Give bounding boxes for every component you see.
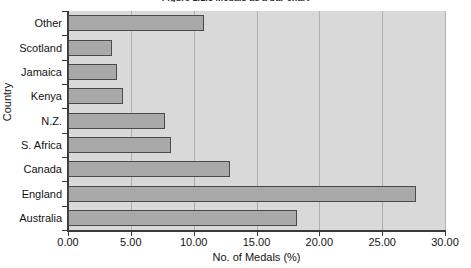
bar	[68, 64, 117, 80]
bar	[68, 210, 297, 226]
y-tick-label: Australia	[0, 212, 62, 224]
y-tick-mark	[62, 157, 67, 158]
y-tick-mark	[62, 206, 67, 207]
y-tick-mark	[62, 35, 67, 36]
x-axis-title: No. of Medals (%)	[68, 251, 445, 263]
x-tick-label: 15.00	[232, 236, 282, 248]
y-tick-mark	[62, 11, 67, 12]
bar	[68, 15, 204, 31]
x-tick-label: 30.00	[420, 236, 470, 248]
bar-row	[68, 137, 445, 153]
bar-row	[68, 40, 445, 56]
y-tick-label: Scotland	[0, 42, 62, 54]
gridline	[445, 11, 446, 230]
bar-chart-figure: Figure 1.1.3 Medals as a bar chart 0.005…	[0, 0, 471, 268]
y-tick-mark	[62, 108, 67, 109]
x-tick-label: 10.00	[169, 236, 219, 248]
bar	[68, 113, 165, 129]
y-tick-mark	[62, 84, 67, 85]
bar-row	[68, 186, 445, 202]
bar-row	[68, 113, 445, 129]
bar	[68, 161, 230, 177]
bar-row	[68, 88, 445, 104]
bar-row	[68, 210, 445, 226]
bar	[68, 88, 123, 104]
x-tick-label: 5.00	[106, 236, 156, 248]
bar-row	[68, 161, 445, 177]
x-tick-label: 25.00	[357, 236, 407, 248]
y-tick-mark	[62, 181, 67, 182]
y-tick-mark	[62, 133, 67, 134]
chart-title: Figure 1.1.3 Medals as a bar chart	[0, 0, 471, 2]
bar	[68, 40, 112, 56]
y-tick-label: S. Africa	[0, 139, 62, 151]
bar-row	[68, 64, 445, 80]
y-axis-title: Country	[1, 71, 13, 133]
x-tick-label: 20.00	[294, 236, 344, 248]
y-tick-label: Canada	[0, 163, 62, 175]
y-tick-label: England	[0, 188, 62, 200]
y-tick-mark	[62, 230, 67, 231]
bar-row	[68, 15, 445, 31]
y-tick-label: Other	[0, 17, 62, 29]
y-tick-mark	[62, 60, 67, 61]
bar	[68, 137, 171, 153]
x-tick-label: 0.00	[43, 236, 93, 248]
bar	[68, 186, 416, 202]
